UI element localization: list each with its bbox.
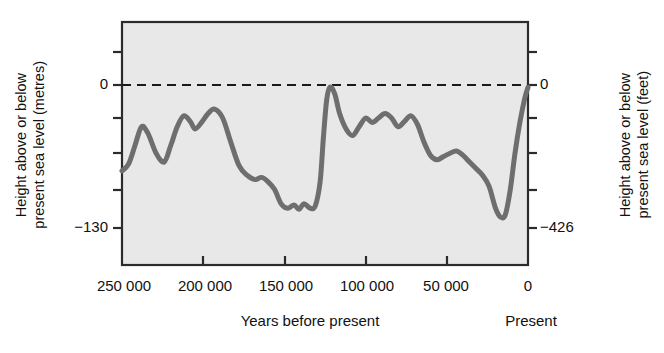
y-axis-title-left-line1: Height above or below (14, 73, 29, 217)
x-tick-label-250000: 250 000 (97, 277, 151, 294)
y-tick-label-right-minus426: −426 (540, 218, 574, 235)
sea-level-chart-figure: Height above or below present sea level … (0, 0, 664, 353)
x-axis-title: Years before present (241, 312, 380, 329)
x-tick-label-50000: 50 000 (423, 277, 469, 294)
y-axis-ticks-left (113, 52, 122, 228)
y-tick-label-left-0: 0 (50, 75, 108, 92)
x-axis-present-label: Present (505, 312, 557, 329)
y-axis-ticks-right (528, 52, 537, 228)
plot-area (0, 0, 664, 353)
x-tick-label-100000: 100 000 (340, 277, 394, 294)
y-tick-label-left-minus130: −130 (42, 218, 108, 235)
x-tick-label-200000: 200 000 (178, 277, 232, 294)
x-tick-label-150000: 150 000 (259, 277, 313, 294)
sea-level-curve (122, 87, 528, 218)
todays-sea-level-annotation: Today's sea level (133, 58, 247, 75)
y-axis-title-right-line2: present sea level (feet) (636, 71, 651, 219)
y-tick-label-right-0: 0 (540, 75, 548, 92)
x-axis-ticks (203, 256, 447, 265)
y-axis-title-left-line2: present sea level (metres) (32, 61, 47, 229)
y-axis-title-right-line1: Height above or below (618, 73, 633, 217)
y-axis-title-right: Height above or below present sea level … (606, 20, 662, 270)
x-tick-label-0: 0 (524, 277, 532, 294)
